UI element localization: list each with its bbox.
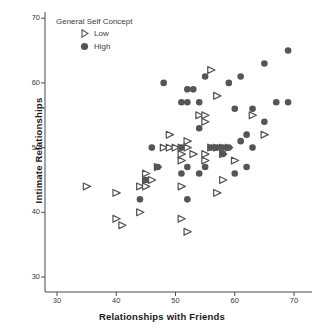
data-point-high [178, 99, 185, 106]
data-point-high [249, 144, 256, 151]
data-point-low [184, 144, 191, 151]
scatter-plot-figure: 3040506070 3040506070 Intimate Relations… [0, 0, 324, 334]
data-point-high [285, 47, 292, 54]
data-point-high [226, 144, 233, 151]
data-point-low [202, 151, 209, 158]
data-point-low [184, 228, 191, 235]
data-point-low [190, 151, 197, 158]
x-tick-label: 70 [282, 296, 306, 305]
y-tick-label: 30 [18, 272, 40, 281]
data-point-high [202, 164, 209, 171]
data-point-high [196, 125, 203, 132]
data-point-low [143, 183, 150, 190]
data-point-low [214, 189, 221, 196]
legend-entry-high: High [56, 41, 166, 52]
data-point-low [261, 131, 268, 138]
data-point-high [237, 138, 244, 145]
data-point-high [285, 99, 292, 106]
data-point-high [231, 170, 238, 177]
data-point-high [273, 99, 280, 106]
data-point-high [149, 144, 156, 151]
data-point-low [149, 177, 156, 184]
data-point-high [243, 164, 250, 171]
data-point-low [202, 112, 209, 119]
data-point-low [178, 215, 185, 222]
data-point-low [137, 209, 144, 216]
data-point-high [243, 131, 250, 138]
data-point-low [119, 222, 126, 229]
x-tick-label: 30 [45, 296, 69, 305]
data-point-low [184, 138, 191, 145]
legend-title: General Self Concept [56, 17, 166, 26]
data-point-low [231, 157, 238, 164]
data-point-high [196, 99, 203, 106]
data-point-high [143, 177, 150, 184]
x-axis-title: Relationships with Friends [0, 311, 324, 322]
data-point-high [184, 196, 191, 203]
data-point-high [190, 86, 197, 93]
data-point-high [160, 80, 167, 87]
triangle-right-outline-icon [78, 28, 91, 39]
data-point-high [261, 118, 268, 125]
data-point-low [220, 177, 227, 184]
data-point-low [113, 215, 120, 222]
data-point-low [214, 92, 221, 99]
data-point-low [178, 151, 185, 158]
data-point-high [196, 170, 203, 177]
data-point-low [113, 189, 120, 196]
data-point-high [154, 164, 161, 171]
data-point-low [166, 131, 173, 138]
data-point-high [220, 151, 227, 158]
data-point-high [184, 99, 191, 106]
data-point-high [237, 73, 244, 80]
data-point-high [178, 144, 185, 151]
data-point-low [143, 170, 150, 177]
data-point-high [184, 86, 191, 93]
legend-label-low: Low [94, 29, 109, 38]
data-point-high [137, 196, 144, 203]
x-tick-label: 40 [104, 296, 128, 305]
data-point-high [220, 144, 227, 151]
data-point-low [178, 157, 185, 164]
data-point-high [214, 144, 221, 151]
data-point-high [184, 164, 191, 171]
circle-filled-icon [78, 41, 91, 52]
x-tick-label-group: 3040506070 [0, 296, 324, 310]
data-point-low [208, 67, 215, 74]
data-point-low [83, 183, 90, 190]
series-low-markers [83, 67, 268, 236]
legend-entry-low: Low [56, 28, 166, 39]
legend: General Self Concept Low High [56, 17, 166, 52]
data-point-high [226, 80, 233, 87]
data-point-high [202, 73, 209, 80]
y-tick-label: 70 [18, 13, 40, 22]
data-point-low [202, 157, 209, 164]
data-point-high [261, 60, 268, 67]
legend-label-high: High [94, 42, 110, 51]
data-point-high [231, 105, 238, 112]
data-point-low [202, 118, 209, 125]
data-point-low [178, 183, 185, 190]
data-point-high [249, 105, 256, 112]
x-tick-label: 50 [164, 296, 188, 305]
x-tick-label: 60 [223, 296, 247, 305]
data-point-low [249, 112, 256, 119]
data-point-high [208, 144, 215, 151]
y-axis-title: Intimate Relationships [33, 51, 44, 251]
data-point-high [178, 170, 185, 177]
